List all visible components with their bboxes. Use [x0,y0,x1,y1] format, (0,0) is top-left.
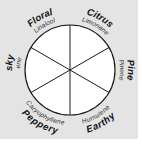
aroma-wheel: CitrusLimonenePinePineneEarthyHumulenePe… [0,0,142,150]
segment-category-label: Pine [125,59,137,82]
pine-compound-text: Pinene [118,59,126,81]
pine-category-text: Pine [125,59,137,82]
segment-compound-label: Pinene [118,59,126,81]
